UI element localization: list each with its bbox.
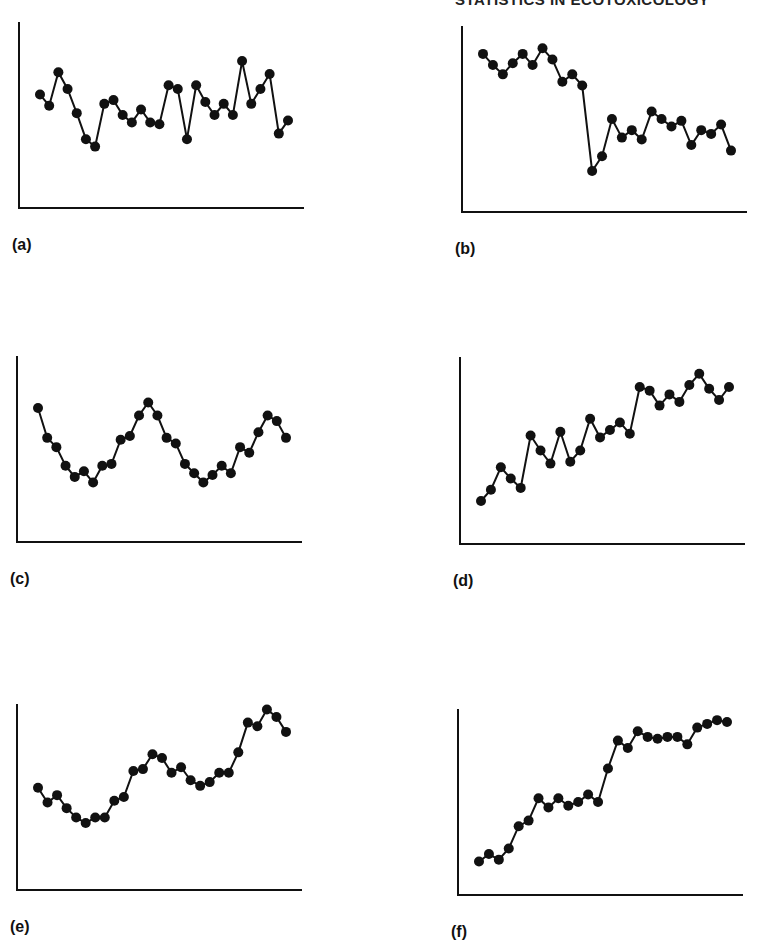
data-point <box>526 431 536 441</box>
data-point <box>195 781 205 791</box>
data-point <box>547 54 557 64</box>
data-point <box>724 382 734 392</box>
data-point <box>109 796 119 806</box>
data-point <box>722 717 732 727</box>
data-point <box>583 790 593 800</box>
data-point <box>271 712 281 722</box>
axes <box>460 357 745 544</box>
data-point <box>528 60 538 70</box>
data-point <box>100 812 110 822</box>
data-point <box>645 386 655 396</box>
data-point <box>585 414 595 424</box>
data-point <box>246 99 256 109</box>
data-point <box>281 433 291 443</box>
data-point <box>714 395 724 405</box>
data-point <box>162 433 172 443</box>
data-point <box>119 792 129 802</box>
data-point <box>605 425 615 435</box>
data-point <box>514 821 524 831</box>
data-point <box>182 134 192 144</box>
line-chart-c <box>16 356 302 544</box>
data-point <box>191 80 201 90</box>
data-point <box>674 397 684 407</box>
chart-panel-c <box>16 356 302 542</box>
data-point <box>210 110 220 120</box>
data-point <box>573 797 583 807</box>
data-point <box>71 812 81 822</box>
data-point <box>625 429 635 439</box>
data-point <box>543 803 553 813</box>
data-point <box>607 114 617 124</box>
line-chart-a <box>18 22 304 210</box>
line-chart-f <box>457 709 743 897</box>
data-point <box>171 438 181 448</box>
data-point <box>504 844 514 854</box>
data-point <box>672 732 682 742</box>
chart-panel-a <box>18 22 304 208</box>
data-point <box>157 753 167 763</box>
data-point <box>534 793 544 803</box>
data-point <box>694 369 704 379</box>
data-point <box>208 470 218 480</box>
data-point <box>575 446 585 456</box>
data-point <box>108 95 118 105</box>
data-point <box>565 457 575 467</box>
data-point <box>545 459 555 469</box>
data-point <box>255 84 265 94</box>
data-point <box>478 49 488 59</box>
panel-label-a: (a) <box>12 236 32 254</box>
running-title: STATISTICS IN ECOTOXICOLOGY <box>455 0 709 8</box>
data-point <box>81 134 91 144</box>
data-point <box>106 459 116 469</box>
data-point <box>228 110 238 120</box>
data-point <box>214 768 224 778</box>
data-point <box>88 477 98 487</box>
data-point <box>33 403 43 413</box>
data-point <box>237 56 247 66</box>
line-chart-d <box>459 357 745 546</box>
data-point <box>577 81 587 91</box>
data-point <box>125 431 135 441</box>
data-point <box>716 120 726 130</box>
data-point <box>553 793 563 803</box>
data-point <box>272 416 282 426</box>
data-point <box>138 764 148 774</box>
data-point <box>253 427 263 437</box>
data-point <box>81 818 91 828</box>
data-point <box>494 855 504 865</box>
data-point <box>134 411 144 421</box>
data-point <box>205 777 215 787</box>
data-point <box>53 67 63 77</box>
data-point <box>666 121 676 131</box>
data-point <box>219 99 229 109</box>
chart-panel-b <box>461 26 747 212</box>
data-point <box>70 472 80 482</box>
data-point <box>252 721 262 731</box>
data-point <box>627 125 637 135</box>
data-point <box>664 389 674 399</box>
axes <box>462 26 747 212</box>
panel-label-b: (b) <box>455 240 475 258</box>
data-point <box>643 732 653 742</box>
data-line <box>483 48 731 171</box>
data-point <box>617 133 627 143</box>
data-point <box>116 435 126 445</box>
data-point <box>587 166 597 176</box>
panel-label-c: (c) <box>10 570 30 588</box>
data-point <box>90 142 100 152</box>
data-point <box>567 69 577 79</box>
data-point <box>706 129 716 139</box>
data-point <box>164 80 174 90</box>
data-point <box>127 117 137 127</box>
data-point <box>662 732 672 742</box>
data-point <box>72 108 82 118</box>
chart-panel-f <box>457 709 743 895</box>
data-point <box>281 727 291 737</box>
data-point <box>143 398 153 408</box>
data-point <box>657 114 667 124</box>
data-point <box>61 461 71 471</box>
data-point <box>52 790 62 800</box>
data-point <box>653 734 663 744</box>
data-point <box>623 743 633 753</box>
data-point <box>263 411 273 421</box>
